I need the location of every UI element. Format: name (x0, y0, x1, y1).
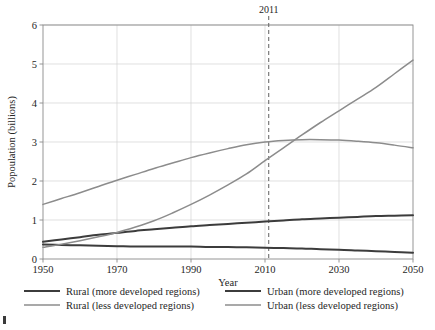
x-tick-label: 1990 (181, 264, 202, 275)
legend-label: Urban (more developed regions) (267, 286, 404, 298)
y-tick-label: 5 (32, 59, 37, 70)
population-chart-figure: 2011 0123456195019701990201020302050 Yea… (0, 0, 435, 330)
y-tick-label: 1 (32, 215, 37, 226)
y-axis-title: Popoulation (billions) (6, 96, 18, 188)
y-tick-label: 4 (32, 98, 38, 109)
x-axis-title: Year (218, 277, 238, 288)
x-tick-label: 1950 (33, 264, 54, 275)
x-tick-label: 1970 (107, 264, 128, 275)
page-artifact-mark (3, 316, 6, 324)
legend-label: Rural (less developed regions) (66, 300, 195, 312)
y-tick-label: 6 (32, 20, 37, 31)
x-tick-label: 2010 (255, 264, 276, 275)
legend-label: Rural (more developed regions) (66, 286, 200, 298)
x-tick-label: 2050 (403, 264, 424, 275)
y-tick-label: 2 (32, 176, 37, 187)
chart-canvas: 2011 0123456195019701990201020302050 Yea… (0, 0, 435, 330)
annotation-label-2011: 2011 (259, 4, 279, 15)
legend-label: Urban (less developed regions) (267, 300, 398, 312)
y-tick-label: 3 (32, 137, 37, 148)
y-tick-label: 0 (32, 254, 37, 265)
x-tick-label: 2030 (329, 264, 350, 275)
